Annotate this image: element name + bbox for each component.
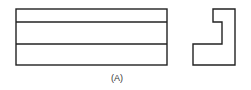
front-view-outline (16, 9, 167, 65)
front-view (16, 9, 167, 65)
orthographic-drawing: (A) (0, 0, 251, 90)
figure-caption: (A) (111, 73, 123, 83)
side-view-profile (193, 9, 235, 65)
